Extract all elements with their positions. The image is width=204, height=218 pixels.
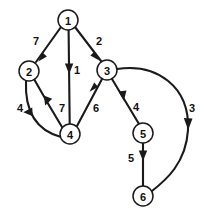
graph-node-3[interactable]: 3 bbox=[97, 60, 117, 80]
node-1-label: 1 bbox=[65, 15, 71, 27]
graph-node-4[interactable]: 4 bbox=[60, 124, 80, 144]
node-3-label: 3 bbox=[104, 65, 110, 77]
edge-2-to-4-line bbox=[34, 79, 62, 127]
edge-4-to-2 bbox=[23, 81, 61, 137]
edge-1-to-4-arrowhead bbox=[65, 64, 73, 75]
edge-weight-4-3: 6 bbox=[93, 102, 99, 114]
edge-weight-1-4: 1 bbox=[74, 64, 80, 76]
edge-4-to-2-arrowhead bbox=[23, 108, 33, 117]
edge-1-to-4 bbox=[65, 30, 73, 124]
edge-weight-3-6: 3 bbox=[189, 102, 195, 114]
edge-weight-2-4: 7 bbox=[59, 102, 65, 114]
edge-weight-1-3: 2 bbox=[96, 35, 102, 47]
edge-weight-1-2: 7 bbox=[33, 35, 39, 47]
edge-5-to-6-arrowhead bbox=[139, 151, 147, 162]
edge-2-to-4 bbox=[34, 79, 62, 127]
edge-5-to-6 bbox=[139, 143, 147, 186]
edge-layer bbox=[23, 27, 192, 191]
node-6-label: 6 bbox=[140, 191, 146, 203]
graph-node-6[interactable]: 6 bbox=[133, 186, 153, 206]
edge-3-to-6-arrowhead bbox=[184, 118, 193, 130]
graph-canvas: 7 2 1 7 4 6 4 3 5 1 2 3 bbox=[0, 0, 204, 218]
node-4-label: 4 bbox=[67, 129, 74, 141]
edge-weight-4-2: 4 bbox=[17, 102, 24, 114]
graph-node-1[interactable]: 1 bbox=[58, 10, 78, 30]
edge-1-to-4-line bbox=[69, 30, 70, 124]
edge-weight-5-6: 5 bbox=[128, 152, 134, 164]
graph-node-2[interactable]: 2 bbox=[19, 61, 39, 81]
edge-1-to-2 bbox=[36, 27, 61, 62]
edge-weight-3-5: 4 bbox=[133, 101, 140, 113]
edge-1-to-2-line bbox=[36, 27, 61, 62]
graph-figure: 7 2 1 7 4 6 4 3 5 1 2 3 bbox=[0, 0, 204, 218]
node-5-label: 5 bbox=[140, 128, 146, 140]
graph-node-5[interactable]: 5 bbox=[133, 123, 153, 143]
edge-3-to-6 bbox=[117, 68, 193, 191]
node-2-label: 2 bbox=[26, 66, 32, 78]
